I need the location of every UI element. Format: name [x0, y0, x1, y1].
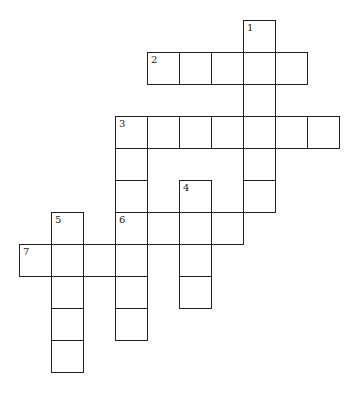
crossword-cell[interactable]: [243, 180, 276, 213]
crossword-cell[interactable]: [115, 180, 148, 213]
crossword-grid: 1236457: [0, 0, 358, 394]
crossword-cell[interactable]: [211, 116, 244, 149]
clue-number: 7: [23, 246, 29, 258]
crossword-cell-5[interactable]: 5: [51, 212, 84, 245]
crossword-cell[interactable]: [275, 116, 308, 149]
crossword-cell[interactable]: [243, 148, 276, 181]
crossword-cell[interactable]: [243, 116, 276, 149]
crossword-cell[interactable]: [243, 84, 276, 117]
crossword-cell[interactable]: [179, 244, 212, 277]
crossword-cell[interactable]: [275, 52, 308, 85]
crossword-cell[interactable]: [51, 308, 84, 341]
crossword-cell[interactable]: [179, 116, 212, 149]
crossword-cell[interactable]: [179, 212, 212, 245]
crossword-cell[interactable]: [115, 148, 148, 181]
crossword-cell[interactable]: [115, 244, 148, 277]
crossword-cell-2[interactable]: 2: [147, 52, 180, 85]
crossword-cell[interactable]: [179, 52, 212, 85]
crossword-cell[interactable]: [115, 308, 148, 341]
clue-number: 4: [183, 182, 189, 194]
crossword-cell[interactable]: [147, 116, 180, 149]
clue-number: 6: [119, 214, 125, 226]
crossword-cell[interactable]: [51, 276, 84, 309]
crossword-cell[interactable]: [307, 116, 340, 149]
crossword-cell[interactable]: [179, 276, 212, 309]
crossword-cell[interactable]: [51, 244, 84, 277]
crossword-cell-4[interactable]: 4: [179, 180, 212, 213]
crossword-cell-1[interactable]: 1: [243, 20, 276, 53]
clue-number: 1: [247, 22, 253, 34]
crossword-cell[interactable]: [211, 52, 244, 85]
clue-number: 3: [119, 118, 125, 130]
crossword-cell[interactable]: [51, 340, 84, 373]
crossword-cell-3[interactable]: 3: [115, 116, 148, 149]
clue-number: 2: [151, 54, 157, 66]
crossword-cell[interactable]: [211, 212, 244, 245]
crossword-cell[interactable]: [147, 212, 180, 245]
crossword-cell-7[interactable]: 7: [19, 244, 52, 277]
clue-number: 5: [55, 214, 61, 226]
crossword-cell-6[interactable]: 6: [115, 212, 148, 245]
crossword-cell[interactable]: [243, 52, 276, 85]
crossword-cell[interactable]: [115, 276, 148, 309]
crossword-cell[interactable]: [83, 244, 116, 277]
